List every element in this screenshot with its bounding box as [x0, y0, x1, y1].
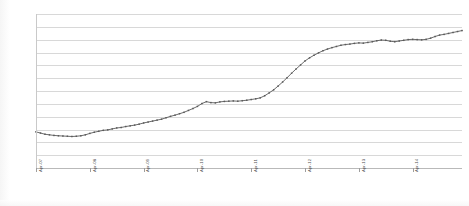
- data-point: [457, 31, 459, 32]
- data-point: [394, 41, 396, 43]
- data-point: [421, 39, 423, 41]
- data-point: [295, 68, 297, 70]
- data-point: [349, 43, 351, 45]
- data-point: [53, 135, 55, 137]
- data-point: [277, 85, 279, 87]
- data-point: [76, 136, 78, 138]
- data-point: [58, 135, 60, 137]
- x-axis-tick-mark: [90, 168, 91, 172]
- data-point: [165, 117, 167, 119]
- series-line: [36, 31, 462, 137]
- data-point: [62, 135, 64, 137]
- data-point: [354, 43, 356, 45]
- x-axis-tick-label: Apr-11: [253, 159, 258, 172]
- page-edge-artifact: [0, 0, 10, 206]
- data-point: [331, 47, 333, 49]
- data-point: [138, 123, 140, 125]
- data-point: [40, 132, 42, 134]
- data-point: [120, 127, 122, 128]
- data-point: [237, 100, 239, 102]
- data-point: [255, 98, 256, 100]
- data-point: [129, 125, 131, 127]
- data-point: [192, 108, 194, 110]
- data-point: [125, 126, 127, 128]
- data-point: [44, 133, 46, 135]
- data-point: [264, 95, 266, 97]
- data-point: [345, 44, 347, 46]
- data-point: [273, 89, 275, 91]
- data-point: [372, 41, 374, 43]
- data-point: [291, 72, 293, 74]
- data-point: [170, 116, 172, 118]
- data-point: [174, 114, 176, 116]
- x-axis-tick-mark: [305, 168, 306, 172]
- data-point: [318, 52, 320, 54]
- data-point: [381, 39, 383, 41]
- data-point: [313, 54, 315, 56]
- data-point: [452, 32, 454, 34]
- data-point: [161, 118, 163, 120]
- data-point: [80, 135, 82, 137]
- data-point: [152, 120, 154, 122]
- data-point: [134, 124, 136, 126]
- data-point: [246, 99, 248, 101]
- data-point: [107, 129, 109, 131]
- data-point: [403, 40, 405, 42]
- data-point: [215, 102, 217, 104]
- data-point: [304, 60, 306, 62]
- data-point: [367, 42, 369, 44]
- data-point: [49, 134, 51, 136]
- x-axis-tick-mark: [359, 168, 360, 172]
- x-axis-tick-label: Apr-07: [38, 159, 43, 172]
- x-axis-tick-label: Apr-09: [145, 159, 150, 172]
- data-point: [179, 113, 181, 115]
- data-point: [228, 100, 230, 102]
- data-point: [85, 134, 87, 136]
- data-point: [156, 119, 158, 121]
- data-point: [67, 136, 69, 138]
- data-point: [242, 100, 244, 102]
- data-point: [188, 110, 190, 112]
- y-axis-line: [36, 14, 37, 169]
- data-point: [233, 100, 235, 102]
- data-point: [103, 130, 105, 132]
- data-point: [111, 128, 113, 130]
- data-point: [224, 101, 226, 103]
- data-point: [412, 39, 414, 41]
- data-point: [425, 39, 427, 41]
- data-point: [94, 131, 96, 133]
- data-point: [448, 33, 450, 35]
- x-axis-tick-label: Apr-12: [307, 159, 312, 172]
- data-point: [71, 136, 73, 138]
- data-point: [286, 77, 288, 79]
- data-point: [439, 34, 441, 36]
- data-point: [259, 97, 261, 99]
- data-point: [282, 81, 284, 83]
- data-point: [250, 99, 252, 101]
- data-point: [147, 121, 149, 123]
- data-point: [201, 103, 203, 105]
- x-axis-tick-mark: [36, 168, 37, 172]
- data-point: [183, 112, 185, 114]
- x-axis-tick-label: Apr-10: [199, 159, 204, 172]
- plot-area: [36, 14, 462, 168]
- series-markers: [35, 30, 463, 137]
- data-point: [322, 50, 324, 52]
- data-point: [363, 42, 365, 44]
- data-point: [197, 106, 199, 108]
- x-axis-line: [36, 168, 462, 169]
- data-point: [430, 37, 432, 39]
- chart-container: Platelets issued per month Apr-07Apr-08A…: [0, 0, 469, 206]
- page-edge-artifact-bottom: [0, 200, 469, 206]
- data-point: [461, 30, 463, 32]
- data-point: [434, 36, 436, 38]
- data-point: [300, 64, 302, 66]
- x-axis-tick-label: Apr-08: [92, 159, 97, 172]
- data-point: [210, 102, 212, 104]
- data-point: [390, 41, 392, 43]
- data-point: [268, 92, 270, 94]
- data-point: [416, 39, 418, 41]
- data-point: [443, 34, 445, 36]
- x-axis-tick-label: Apr-13: [361, 159, 366, 172]
- data-point: [219, 101, 221, 103]
